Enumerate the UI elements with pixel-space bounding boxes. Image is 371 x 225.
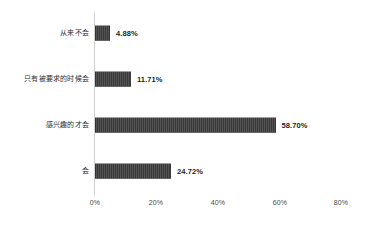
x-tick-0: 0% bbox=[90, 199, 100, 206]
category-label: 只有被要求的时候会 bbox=[24, 74, 89, 84]
bar-value-label: 24.72% bbox=[177, 167, 203, 176]
category-label: 会 bbox=[82, 166, 89, 176]
x-tick-60: 60% bbox=[273, 199, 287, 206]
plot-area: 从来不会 4.88% 只有被要求的时候会 11.71% 感兴趣的才会 58.70… bbox=[0, 0, 371, 225]
bar-hui bbox=[95, 164, 171, 179]
bar-value-label: 11.71% bbox=[137, 75, 163, 84]
value-axis-tick-labels: 0% 20% 40% 60% 80% bbox=[0, 199, 371, 213]
bar-row: 感兴趣的才会 58.70% bbox=[0, 102, 371, 148]
category-label: 感兴趣的才会 bbox=[46, 120, 89, 130]
category-label: 从来不会 bbox=[60, 28, 89, 38]
x-tick-80: 80% bbox=[334, 199, 348, 206]
bar-from-lai-bu-hui bbox=[95, 26, 110, 41]
x-tick-20: 20% bbox=[149, 199, 163, 206]
bar-row: 会 24.72% bbox=[0, 148, 371, 194]
bar-row: 只有被要求的时候会 11.71% bbox=[0, 56, 371, 102]
bar-zhi-you-bei-yao-qiu-de-shi-hou-hui bbox=[95, 72, 131, 87]
bar-chart: 从来不会 4.88% 只有被要求的时候会 11.71% 感兴趣的才会 58.70… bbox=[0, 0, 371, 225]
bar-gan-xing-qu-de-cai-hui bbox=[95, 118, 276, 133]
bar-row: 从来不会 4.88% bbox=[0, 10, 371, 56]
x-tick-40: 40% bbox=[211, 199, 225, 206]
bar-value-label: 58.70% bbox=[282, 121, 308, 130]
bar-value-label: 4.88% bbox=[116, 29, 138, 38]
